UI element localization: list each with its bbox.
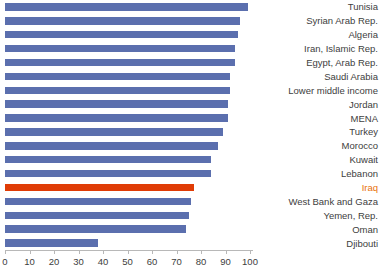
bar xyxy=(5,45,235,53)
bar-row xyxy=(0,222,382,236)
bar xyxy=(5,73,230,81)
bar xyxy=(5,100,228,108)
x-tick-mark xyxy=(79,250,80,254)
x-tick-mark xyxy=(152,250,153,254)
x-tick-mark xyxy=(103,250,104,254)
bar-row xyxy=(0,153,382,167)
bar xyxy=(5,59,235,67)
bar-chart: 0102030405060708090100 TunisiaSyrian Ara… xyxy=(0,0,382,274)
bar-row xyxy=(0,181,382,195)
bar-row xyxy=(0,111,382,125)
bar-row xyxy=(0,14,382,28)
bar xyxy=(5,114,228,122)
bar-highlight xyxy=(5,184,194,192)
bar xyxy=(5,156,211,164)
bar xyxy=(5,3,248,11)
bar xyxy=(5,239,98,247)
bar xyxy=(5,128,223,136)
x-tick-mark xyxy=(128,250,129,254)
bar-row xyxy=(0,236,382,250)
x-tick-mark xyxy=(177,250,178,254)
x-tick-mark xyxy=(201,250,202,254)
bar xyxy=(5,170,211,178)
bar-row xyxy=(0,97,382,111)
bar-row xyxy=(0,139,382,153)
bar-row xyxy=(0,42,382,56)
x-tick-mark xyxy=(30,250,31,254)
bar xyxy=(5,225,186,233)
x-tick-mark xyxy=(226,250,227,254)
x-tick-mark xyxy=(250,250,251,254)
bar-row xyxy=(0,28,382,42)
x-tick-mark xyxy=(5,250,6,254)
x-tick-label: 100 xyxy=(235,256,265,268)
bar-row xyxy=(0,194,382,208)
bar-row xyxy=(0,125,382,139)
bar-row xyxy=(0,167,382,181)
bar xyxy=(5,31,238,39)
bar-row xyxy=(0,69,382,83)
bar-row xyxy=(0,83,382,97)
x-tick-mark xyxy=(54,250,55,254)
bar xyxy=(5,212,189,220)
bar xyxy=(5,17,240,25)
bar xyxy=(5,87,230,95)
bar-row xyxy=(0,208,382,222)
x-axis-line xyxy=(5,250,253,251)
bar xyxy=(5,198,191,206)
bar-row xyxy=(0,56,382,70)
bar-row xyxy=(0,0,382,14)
bar xyxy=(5,142,218,150)
